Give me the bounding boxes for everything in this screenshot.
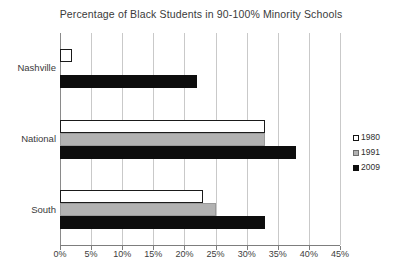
- category-label-south: South: [0, 204, 56, 215]
- plot-area: [60, 33, 340, 245]
- category-label-nashville: Nashville: [0, 62, 56, 73]
- legend-item-2009: 2009: [353, 161, 399, 174]
- legend-swatch-2009: [353, 165, 359, 171]
- x-tick-label: 5%: [85, 249, 98, 259]
- x-tick-label: 25%: [207, 249, 225, 259]
- legend-swatch-1980: [353, 135, 359, 141]
- x-tick-labels: 0%5%10%15%20%25%30%35%40%45%: [60, 249, 340, 263]
- bar-chart: Percentage of Black Students in 90-100% …: [0, 0, 402, 278]
- legend-label-1991: 1991: [361, 148, 380, 157]
- x-tick-label: 10%: [113, 249, 131, 259]
- legend-item-1991: 1991: [353, 146, 399, 159]
- legend-label-2009: 2009: [361, 163, 380, 172]
- x-tick-label: 45%: [331, 249, 349, 259]
- gridline: [278, 33, 279, 245]
- x-tick-label: 40%: [300, 249, 318, 259]
- bar-nashville-2009: [60, 75, 197, 88]
- legend-label-1980: 1980: [361, 133, 380, 142]
- category-axis-labels: NashvilleNationalSouth: [0, 33, 56, 245]
- legend-item-1980: 1980: [353, 131, 399, 144]
- bar-nashville-1980: [60, 49, 72, 62]
- gridline: [309, 33, 310, 245]
- x-tick-label: 15%: [144, 249, 162, 259]
- x-tick-label: 20%: [175, 249, 193, 259]
- bar-national-1991: [60, 133, 265, 146]
- bar-south-1980: [60, 190, 203, 203]
- x-tick-label: 0%: [53, 249, 66, 259]
- chart-legend: 198019912009: [353, 131, 399, 176]
- x-tick-label: 30%: [238, 249, 256, 259]
- gridline: [340, 33, 341, 245]
- bar-south-2009: [60, 216, 265, 229]
- chart-title: Percentage of Black Students in 90-100% …: [0, 8, 402, 20]
- bar-national-2009: [60, 146, 296, 159]
- bar-national-1980: [60, 120, 265, 133]
- legend-swatch-1991: [353, 150, 359, 156]
- x-tick-label: 35%: [269, 249, 287, 259]
- category-label-national: National: [0, 133, 56, 144]
- bar-south-1991: [60, 203, 216, 216]
